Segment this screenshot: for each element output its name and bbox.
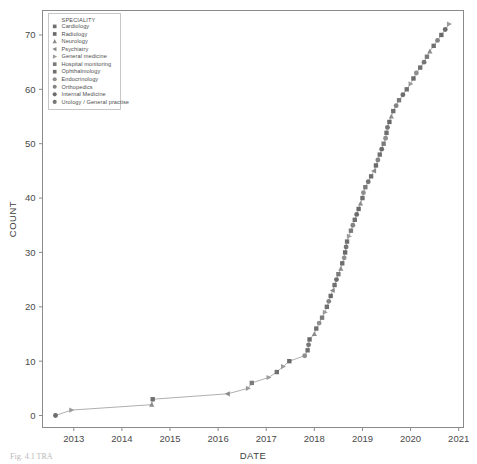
data-point[interactable] [353, 218, 357, 222]
svg-text:50: 50 [25, 138, 36, 149]
figure-caption: Fig. 4.1 TRA [10, 452, 310, 463]
data-point[interactable] [439, 33, 443, 37]
data-point[interactable] [405, 87, 409, 91]
data-point[interactable] [378, 152, 382, 156]
svg-text:2020: 2020 [400, 433, 421, 444]
data-point[interactable] [344, 245, 349, 250]
data-point[interactable] [374, 163, 378, 167]
data-point[interactable] [225, 391, 230, 396]
data-point[interactable] [334, 277, 339, 282]
data-point[interactable] [371, 168, 376, 173]
data-point[interactable] [340, 261, 344, 265]
data-point[interactable] [345, 239, 349, 243]
data-point[interactable] [349, 229, 353, 233]
data-point[interactable] [246, 386, 251, 391]
data-point[interactable] [332, 283, 336, 287]
data-point[interactable] [317, 321, 322, 326]
data-point[interactable] [336, 272, 340, 276]
data-point[interactable] [431, 44, 435, 48]
data-point[interactable] [443, 27, 448, 32]
legend-title: SPECIALITY [62, 17, 96, 23]
data-point[interactable] [329, 294, 333, 298]
data-point[interactable] [356, 207, 360, 211]
svg-text:2018: 2018 [304, 433, 325, 444]
chart-legend[interactable]: SPECIALITYCardiologyRadiologyNeurologyPs… [49, 14, 130, 110]
data-point[interactable] [375, 158, 380, 163]
legend-item[interactable]: General medicine [53, 53, 107, 59]
data-point[interactable] [411, 76, 415, 80]
data-point[interactable] [314, 326, 318, 330]
svg-text:20: 20 [25, 301, 36, 312]
legend-item-label: Cardiology [62, 23, 90, 29]
data-point[interactable] [302, 353, 307, 358]
data-point[interactable] [53, 413, 58, 418]
legend-item-label: Psychiatry [62, 46, 89, 52]
data-point[interactable] [422, 60, 427, 65]
data-point[interactable] [400, 92, 405, 97]
legend-marker-icon [53, 100, 57, 104]
data-point[interactable] [363, 185, 367, 189]
legend-item[interactable]: Hospital monitoring [53, 61, 111, 67]
data-point[interactable] [379, 147, 384, 152]
data-point[interactable] [342, 255, 347, 260]
data-point[interactable] [306, 342, 311, 347]
legend-item-label: Internal Medicine [62, 91, 106, 97]
data-point[interactable] [418, 65, 422, 69]
data-point[interactable] [361, 190, 366, 195]
data-point[interactable] [150, 397, 154, 401]
data-point[interactable] [397, 98, 401, 102]
legend-item-label: Neurology [62, 38, 88, 44]
legend-marker-icon [53, 62, 57, 66]
data-point[interactable] [307, 337, 311, 341]
data-point[interactable] [287, 359, 291, 363]
data-point[interactable] [312, 331, 317, 336]
data-point[interactable] [360, 196, 364, 200]
data-point[interactable] [384, 131, 388, 135]
legend-marker-icon [53, 32, 57, 36]
data-point[interactable] [394, 103, 399, 108]
data-point[interactable] [389, 114, 394, 119]
data-point[interactable] [326, 299, 331, 304]
data-point[interactable] [383, 136, 388, 141]
legend-marker-icon [53, 25, 57, 29]
legend-marker-icon [53, 85, 57, 89]
data-point[interactable] [343, 250, 347, 254]
x-axis-ticks: 201320142015201620172018201920202021 [63, 428, 469, 444]
data-point[interactable] [305, 348, 309, 352]
data-point[interactable] [425, 55, 429, 59]
data-point[interactable] [325, 305, 329, 309]
y-axis-label: COUNT [7, 201, 18, 237]
data-point[interactable] [435, 38, 440, 43]
data-point[interactable] [69, 407, 74, 412]
legend-marker-icon [53, 70, 57, 74]
data-point[interactable] [408, 81, 413, 86]
svg-text:2014: 2014 [111, 433, 132, 444]
legend-item[interactable]: Urology / General practise [53, 99, 129, 105]
svg-text:2021: 2021 [448, 433, 469, 444]
svg-text:60: 60 [25, 84, 36, 95]
data-point[interactable] [381, 142, 385, 146]
data-point[interactable] [414, 71, 419, 76]
data-point[interactable] [369, 174, 373, 178]
svg-text:2019: 2019 [352, 433, 373, 444]
data-point[interactable] [350, 223, 355, 228]
data-point[interactable] [447, 21, 452, 26]
legend-item[interactable]: Internal Medicine [53, 91, 106, 97]
data-point[interactable] [320, 315, 324, 319]
data-point[interactable] [358, 201, 363, 206]
scatter-chart[interactable]: 201320142015201620172018201920202021 010… [0, 0, 477, 464]
svg-text:70: 70 [25, 29, 36, 40]
data-point[interactable] [385, 125, 390, 130]
svg-text:0: 0 [30, 410, 35, 421]
data-point[interactable] [387, 120, 391, 124]
legend-marker-icon [53, 77, 57, 81]
data-point[interactable] [338, 266, 343, 271]
data-point[interactable] [354, 212, 359, 217]
legend-item-label: Ophthalmology [62, 68, 101, 74]
data-point[interactable] [149, 402, 154, 407]
data-point[interactable] [391, 109, 395, 113]
data-point[interactable] [366, 179, 371, 184]
data-point[interactable] [250, 381, 254, 385]
legend-marker-icon [53, 92, 57, 96]
data-point[interactable] [275, 370, 279, 374]
